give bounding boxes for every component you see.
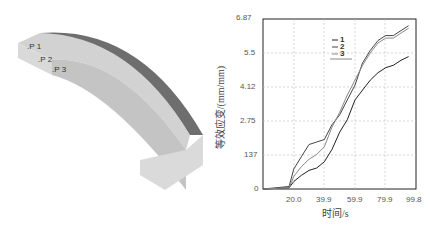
point-label-3: .P 3: [52, 65, 66, 74]
y-axis-label: 等效应变/(mm/mm): [212, 66, 227, 149]
legend-label-3: 3: [340, 49, 344, 58]
series-line-1: [263, 57, 409, 189]
x-tick: 20.0: [286, 195, 302, 204]
x-tick: 59.9: [347, 195, 363, 204]
series-lines: [263, 26, 409, 189]
x-tick: 99.8: [406, 195, 422, 204]
y-tick: 4.12: [240, 82, 256, 91]
x-tick: 79.9: [377, 195, 393, 204]
y-tick: 6.87: [236, 13, 252, 22]
point-label-1: .P 1: [27, 42, 41, 51]
series-line-3: [263, 28, 409, 189]
x-axis-label: 时间/s: [322, 205, 349, 220]
point-label-2: .P 2: [38, 55, 52, 64]
y-tick: 137: [244, 150, 257, 159]
y-tick: 2.75: [240, 116, 256, 125]
series-line-2: [263, 26, 409, 189]
y-tick: 0: [254, 184, 258, 193]
x-tick: 39.9: [316, 195, 332, 204]
y-tick: 5.5: [244, 48, 255, 57]
